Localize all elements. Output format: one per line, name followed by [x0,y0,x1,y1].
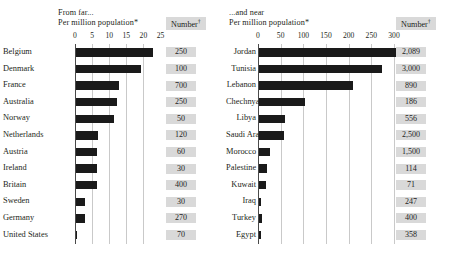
left-row-label: Belgium [3,44,72,61]
chart-row[interactable]: Australia250 [0,94,226,111]
chart-bar[interactable] [259,198,261,206]
chart-bar[interactable] [76,148,97,156]
figure-root: From far... Per million population* Numb… [0,0,454,259]
left-row-label: Germany [3,210,72,227]
chart-bar[interactable] [76,214,85,222]
chart-row[interactable]: Iraq247 [226,193,454,210]
left-number-header-text: Number [171,20,198,29]
chart-bar[interactable] [76,81,119,89]
chart-bar[interactable] [259,131,284,139]
right-row-number: 400 [396,213,426,223]
chart-bar[interactable] [259,164,267,172]
right-row-number: 890 [396,81,426,91]
chart-bar[interactable] [259,115,285,123]
right-row-number: 2,500 [396,130,426,140]
chart-bar[interactable] [259,81,353,89]
chart-bar[interactable] [259,98,305,106]
chart-bar[interactable] [76,181,97,189]
right-axis-tick: 50 [277,31,285,40]
chart-bar[interactable] [259,65,382,73]
chart-bar[interactable] [76,115,114,123]
left-row-label: Austria [3,144,72,161]
chart-bar[interactable] [76,48,153,56]
chart-row[interactable]: France700 [0,77,226,94]
right-row-number: 3,000 [396,64,426,74]
right-axis-tick: 250 [366,31,377,40]
chart-bar[interactable] [76,198,85,206]
chart-bar[interactable] [76,131,98,139]
chart-row[interactable]: Sweden30 [0,193,226,210]
right-row-number: 186 [396,97,426,107]
left-row-number: 700 [166,81,196,91]
right-axis-tick: 100 [298,31,309,40]
chart-row[interactable]: Britain400 [0,177,226,194]
right-row-label: Chechnya [226,94,256,111]
chart-bar[interactable] [76,98,117,106]
chart-row[interactable]: Germany270 [0,210,226,227]
right-row-label: Morocco [226,144,256,161]
left-row-number: 270 [166,213,196,223]
right-chart-subtitle: Per million population* [229,18,309,28]
chart-row[interactable]: Lebanon890 [226,77,454,94]
left-row-label: United States [3,227,72,244]
chart-bar[interactable] [259,214,262,222]
right-row-number: 247 [396,197,426,207]
left-axis-tick: 0 [73,31,77,40]
left-subtitle-text: Per million population* [58,18,138,27]
left-row-number: 30 [166,197,196,207]
right-row-number: 71 [396,180,426,190]
chart-row[interactable]: Austria60 [0,144,226,161]
chart-row[interactable]: Belgium250 [0,44,226,61]
left-chart-subtitle: Per million population* [58,18,138,28]
chart-row[interactable]: Turkey400 [226,210,454,227]
left-chart-title: From far... [58,8,94,18]
chart-bar[interactable] [259,181,266,189]
chart-row[interactable]: Egypt358 [226,227,454,244]
right-number-header-text: Number [401,20,428,29]
left-row-label: Norway [3,110,72,127]
right-axis-tick: 150 [320,31,331,40]
left-axis-tick: 20 [140,31,148,40]
left-row-label: Britain [3,177,72,194]
chart-bar[interactable] [259,231,261,239]
right-row-label: Jordan [226,44,256,61]
right-row-number: 556 [396,114,426,124]
chart-row[interactable]: Denmark100 [0,61,226,78]
right-row-label: Kuwait [226,177,256,194]
left-row-number: 100 [166,64,196,74]
chart-row[interactable]: Saudi Arabia2,500 [226,127,454,144]
chart-row[interactable]: Chechnya186 [226,94,454,111]
right-number-column-header: Number† [396,17,436,30]
chart-bar[interactable] [259,148,270,156]
chart-row[interactable]: Libya556 [226,110,454,127]
chart-panel-and-near: ...and near Per million population* Numb… [226,0,454,259]
left-x-axis: 0510152025 [0,31,226,43]
chart-bar[interactable] [259,48,403,56]
left-row-label: Sweden [3,193,72,210]
left-row-label: France [3,77,72,94]
right-axis-tick: 0 [256,31,260,40]
chart-row[interactable]: Netherlands120 [0,127,226,144]
left-row-number: 400 [166,180,196,190]
chart-row[interactable]: United States70 [0,227,226,244]
chart-bar[interactable] [76,231,77,239]
chart-row[interactable]: Palestine114 [226,160,454,177]
chart-bar[interactable] [76,164,97,172]
right-row-number: 1,500 [396,147,426,157]
chart-row[interactable]: Kuwait71 [226,177,454,194]
chart-row[interactable]: Morocco1,500 [226,144,454,161]
right-row-label: Egypt [226,227,256,244]
right-row-label: Tunisia [226,61,256,78]
chart-row[interactable]: Ireland30 [0,160,226,177]
right-row-number: 358 [396,230,426,240]
right-row-label: Libya [226,110,256,127]
right-axis-tick: 200 [343,31,354,40]
chart-row[interactable]: Tunisia3,000 [226,61,454,78]
right-row-label: Turkey [226,210,256,227]
chart-row[interactable]: Norway50 [0,110,226,127]
left-number-column-header: Number† [166,17,206,30]
left-axis-tick: 15 [123,31,131,40]
chart-row[interactable]: Jordan2,089 [226,44,454,61]
chart-panel-from-far: From far... Per million population* Numb… [0,0,226,259]
chart-bar[interactable] [76,65,141,73]
